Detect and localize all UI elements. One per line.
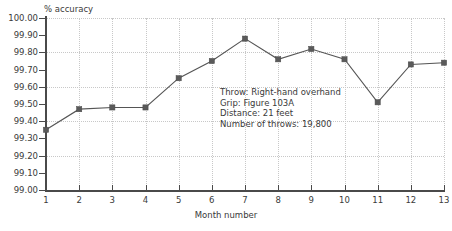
x-axis-title: Month number — [0, 210, 452, 220]
data-point-marker — [276, 57, 281, 62]
data-point-marker — [110, 105, 115, 110]
data-point-marker — [408, 62, 413, 67]
data-point-marker — [375, 100, 380, 105]
annotation-textbox: Throw: Right-hand overhand Grip: Figure … — [220, 87, 341, 129]
data-point-marker — [242, 36, 247, 41]
data-point-marker — [43, 127, 48, 132]
data-point-marker — [309, 46, 314, 51]
data-point-marker — [342, 57, 347, 62]
line-chart: % accuracy 100.0099.9099.8099.7099.6099.… — [0, 0, 452, 231]
annotation-line-grip: Grip: Figure 103A — [220, 98, 341, 109]
annotation-line-throw: Throw: Right-hand overhand — [220, 87, 341, 98]
annotation-line-distance: Distance: 21 feet — [220, 108, 341, 119]
data-point-marker — [77, 107, 82, 112]
data-point-marker — [209, 58, 214, 63]
annotation-line-throws: Number of throws: 19,800 — [220, 119, 341, 130]
data-point-marker — [176, 76, 181, 81]
data-point-marker — [143, 105, 148, 110]
data-point-marker — [441, 60, 446, 65]
